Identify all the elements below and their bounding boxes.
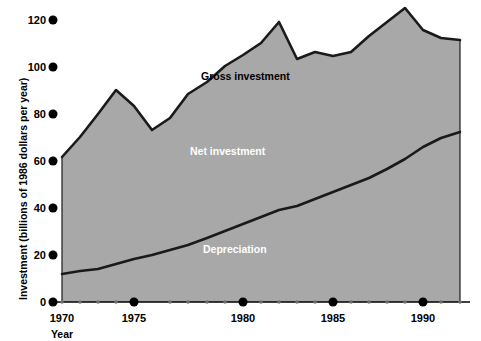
y-tick-label-0: 0 [40, 296, 46, 308]
annotation-gross-investment: Gross investment [201, 70, 290, 82]
x-tick-label-1975: 1975 [122, 312, 146, 324]
y-tick-dot-100 [49, 63, 58, 72]
x-tick-label-1990: 1990 [411, 312, 435, 324]
x-tick-label-1985: 1985 [321, 312, 345, 324]
x-tick-dot-1990 [419, 298, 428, 307]
y-tick-label-20: 20 [34, 249, 46, 261]
investment-area-chart: 120 100 80 60 40 20 0 Investment (billio… [0, 0, 481, 341]
y-tick-dot-60 [49, 157, 58, 166]
y-tick-label-100: 100 [28, 61, 46, 73]
annotation-depreciation: Depreciation [203, 243, 267, 255]
y-tick-label-60: 60 [34, 155, 46, 167]
x-tick-dot-1975 [130, 298, 139, 307]
y-axis-title: Investment (billions of 1986 dollars per… [17, 78, 29, 300]
y-tick-dot-20 [49, 251, 58, 260]
x-tick-dot-1985 [329, 298, 338, 307]
x-tick-label-1980: 1980 [231, 312, 255, 324]
y-tick-label-80: 80 [34, 108, 46, 120]
y-tick-label-40: 40 [34, 202, 46, 214]
annotation-net-investment: Net investment [190, 145, 266, 157]
y-tick-dot-80 [49, 110, 58, 119]
x-axis-title: Year [51, 328, 73, 340]
chart-container: 120 100 80 60 40 20 0 Investment (billio… [0, 0, 481, 341]
x-tick-dot-1980 [239, 298, 248, 307]
y-tick-label-120: 120 [28, 14, 46, 26]
x-tick-label-1970: 1970 [50, 312, 74, 324]
y-tick-dot-40 [49, 204, 58, 213]
y-tick-dot-120 [49, 16, 58, 25]
